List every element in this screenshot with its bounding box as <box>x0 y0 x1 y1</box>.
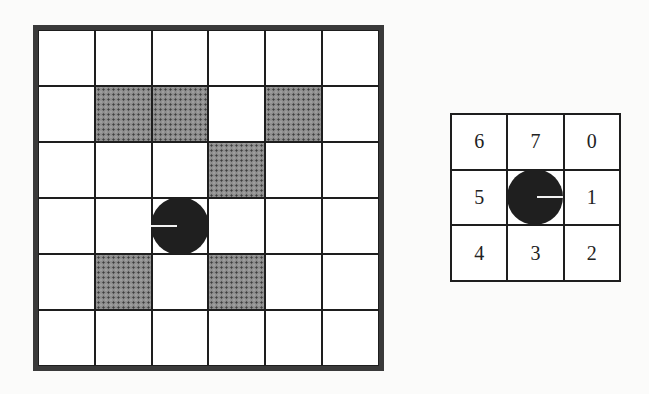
direction-label: 5 <box>474 186 484 209</box>
direction-cell: 3 <box>507 225 563 281</box>
direction-neighborhood-grid: 67051432 <box>450 113 621 282</box>
direction-label: 7 <box>530 130 540 153</box>
direction-cell: 0 <box>564 114 620 170</box>
grid-cell <box>322 198 379 254</box>
direction-cell: 5 <box>451 170 507 226</box>
grid-cell <box>38 198 95 254</box>
grid-cell <box>152 198 209 254</box>
grid-cell <box>208 30 265 86</box>
grid-cell <box>265 310 322 366</box>
grid-cell <box>322 310 379 366</box>
grid-cell <box>265 30 322 86</box>
robot-icon <box>151 197 209 255</box>
environment-grid <box>33 25 384 371</box>
obstacle-cell <box>152 86 209 142</box>
grid-cell <box>265 198 322 254</box>
obstacle-cell <box>208 142 265 198</box>
grid-cell <box>95 310 152 366</box>
grid-cell <box>322 86 379 142</box>
grid-cell <box>38 142 95 198</box>
grid-cell <box>152 30 209 86</box>
grid-cell <box>95 142 152 198</box>
grid-cell <box>208 310 265 366</box>
direction-cell: 7 <box>507 114 563 170</box>
grid-cell <box>38 254 95 310</box>
obstacle-cell <box>95 254 152 310</box>
grid-cell <box>95 198 152 254</box>
direction-cell: 1 <box>564 170 620 226</box>
grid-cell <box>208 86 265 142</box>
grid-cell <box>152 142 209 198</box>
grid-cell <box>38 30 95 86</box>
grid-cell <box>322 142 379 198</box>
direction-label: 4 <box>474 242 484 265</box>
grid-cell <box>38 86 95 142</box>
grid-cell <box>152 310 209 366</box>
robot-icon <box>507 169 563 225</box>
direction-label: 1 <box>587 186 597 209</box>
heading-indicator <box>151 225 177 227</box>
direction-label: 0 <box>587 130 597 153</box>
grid-cell <box>208 198 265 254</box>
grid-cell <box>322 254 379 310</box>
heading-indicator <box>537 196 563 198</box>
obstacle-cell <box>95 86 152 142</box>
grid-cell <box>152 254 209 310</box>
obstacle-cell <box>265 86 322 142</box>
direction-cell: 6 <box>451 114 507 170</box>
direction-label: 2 <box>587 242 597 265</box>
direction-cell: 4 <box>451 225 507 281</box>
obstacle-cell <box>208 254 265 310</box>
direction-label: 6 <box>474 130 484 153</box>
grid-cell <box>38 310 95 366</box>
grid-cell <box>95 30 152 86</box>
direction-cell: 2 <box>564 225 620 281</box>
direction-label: 3 <box>530 242 540 265</box>
grid-cell <box>265 142 322 198</box>
grid-cell <box>322 30 379 86</box>
center-cell <box>507 170 563 226</box>
grid-cell <box>265 254 322 310</box>
